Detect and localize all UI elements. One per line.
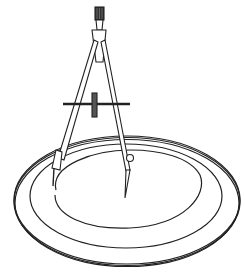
needle-point (125, 170, 130, 198)
compass-drawing (0, 0, 245, 278)
compass-illustration: Line drawing of a drafting compass drawi… (0, 0, 245, 278)
compass-leg-right (101, 40, 130, 171)
needle-clamp-screw (127, 155, 134, 162)
adjustment-screw (92, 93, 97, 117)
